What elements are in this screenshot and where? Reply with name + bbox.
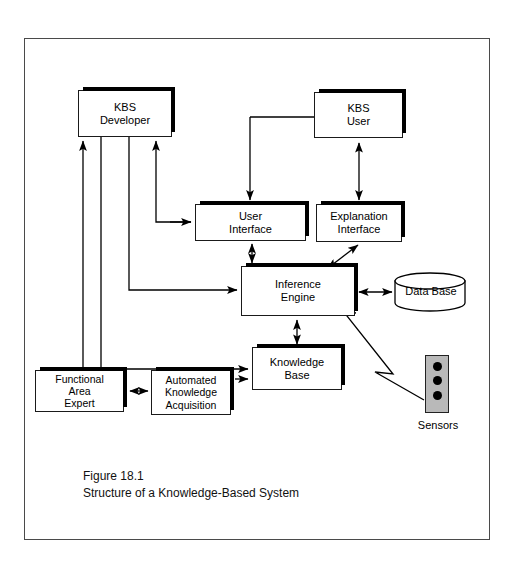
node-user-interface[interactable]: User Interface xyxy=(195,204,306,241)
node-kbs-user-label: KBS User xyxy=(347,102,370,127)
sensor-dot-icon xyxy=(433,376,442,385)
figure-canvas: KBS Developer KBS User User Interface Ex… xyxy=(0,0,520,566)
node-functional-area-expert-label: Functional Area Expert xyxy=(55,373,103,409)
node-functional-area-expert[interactable]: Functional Area Expert xyxy=(35,370,124,412)
figure-caption-line-1: Figure 18.1 xyxy=(83,468,299,485)
figure-caption-line-2: Structure of a Knowledge-Based System xyxy=(83,485,299,502)
node-kbs-developer[interactable]: KBS Developer xyxy=(78,90,172,137)
node-inference-engine[interactable]: Inference Engine xyxy=(241,266,355,316)
node-kbs-user[interactable]: KBS User xyxy=(314,92,403,138)
node-knowledge-base[interactable]: Knowledge Base xyxy=(252,347,342,390)
sensor-dot-icon xyxy=(433,362,442,371)
node-sensors-label: Sensors xyxy=(403,419,473,431)
figure-caption: Figure 18.1 Structure of a Knowledge-Bas… xyxy=(83,468,299,503)
node-automated-knowledge-acquisition[interactable]: Automated Knowledge Acquisition xyxy=(151,370,231,415)
node-inference-engine-label: Inference Engine xyxy=(275,278,321,303)
node-explanation-interface-label: Explanation Interface xyxy=(330,210,388,235)
node-explanation-interface[interactable]: Explanation Interface xyxy=(316,204,402,242)
node-sensors[interactable] xyxy=(425,355,449,413)
node-kbs-developer-label: KBS Developer xyxy=(100,101,150,126)
node-automated-knowledge-acquisition-label: Automated Knowledge Acquisition xyxy=(165,374,217,410)
node-data-base-label: Data Base xyxy=(396,285,466,297)
node-knowledge-base-label: Knowledge Base xyxy=(270,356,324,381)
sensor-dot-icon xyxy=(433,391,442,400)
node-user-interface-label: User Interface xyxy=(229,210,272,235)
